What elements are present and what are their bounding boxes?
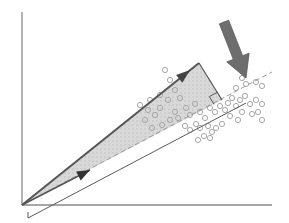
scatter-point <box>227 113 232 118</box>
scatter-point <box>259 117 264 122</box>
scatter-point <box>201 133 206 138</box>
scatter-point <box>239 109 244 114</box>
diagram-canvas <box>0 0 289 223</box>
scatter-point <box>259 83 264 88</box>
scatter-point <box>217 103 222 108</box>
scatter-point <box>235 117 240 122</box>
scatter-point <box>162 67 167 72</box>
scatter-point <box>249 111 254 116</box>
scatter-point <box>253 97 258 102</box>
scatter-point <box>202 115 207 120</box>
scatter-point <box>213 125 218 130</box>
projected-vector-arrowhead-icon <box>76 170 90 180</box>
shaded-triangle-region <box>22 63 222 205</box>
scatter-point <box>222 107 227 112</box>
scatter-point <box>243 81 248 86</box>
scatter-point <box>167 77 172 82</box>
scatter-point <box>137 102 142 107</box>
scatter-point <box>225 100 230 105</box>
scatter-point <box>212 109 217 114</box>
scatter-point <box>229 95 234 100</box>
scatter-point <box>237 97 242 102</box>
scatter-point <box>255 109 260 114</box>
scatter-point <box>219 121 224 126</box>
scatter-point <box>247 101 252 106</box>
scatter-point <box>182 123 187 128</box>
big-direction-arrow-icon <box>219 20 249 78</box>
data-vector-arrow <box>22 63 199 205</box>
scatter-point <box>242 93 247 98</box>
projection-diagram <box>0 0 289 223</box>
scatter-point <box>207 135 212 140</box>
scatter-point <box>259 101 264 106</box>
scatter-point <box>195 137 200 142</box>
